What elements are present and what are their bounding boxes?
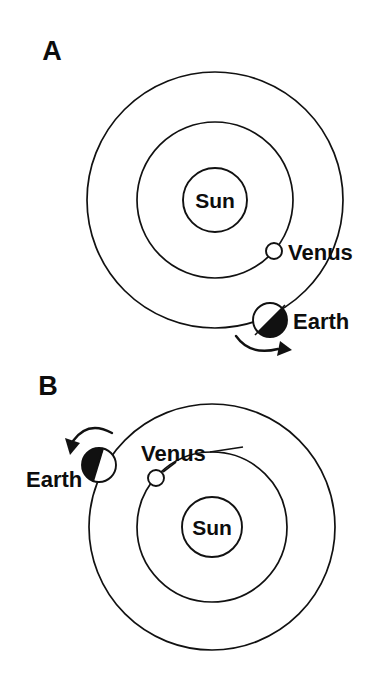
panel-a-letter: A — [42, 36, 62, 66]
orbital-configuration-diagram: A Sun Venus Earth — [0, 0, 372, 700]
astronomy-diagram-figure: A Sun Venus Earth — [0, 0, 372, 700]
figure-background — [0, 0, 372, 700]
panel-b-venus-label: Venus — [141, 441, 206, 466]
panel-b-earth-label: Earth — [26, 467, 82, 492]
panel-b-letter: B — [38, 371, 58, 401]
panel-b-sun-label: Sun — [192, 516, 232, 539]
panel-a-sun-label: Sun — [195, 189, 235, 212]
panel-b-venus-body — [148, 470, 164, 486]
panel-a-earth-label: Earth — [293, 309, 349, 334]
panel-a-venus-label: Venus — [288, 240, 353, 265]
panel-a-venus-body — [266, 243, 282, 259]
